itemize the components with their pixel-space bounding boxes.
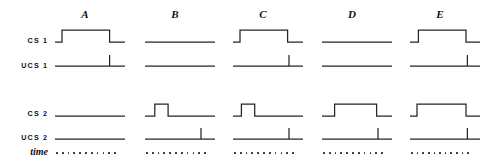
trace-a-cs2 (55, 100, 125, 120)
trace-c-ucs2 (233, 125, 303, 143)
column-header-a: A (65, 8, 105, 20)
column-header-b: B (155, 8, 195, 20)
time-dots-e (411, 151, 469, 155)
trace-d-cs1 (322, 26, 392, 46)
column-header-e: E (420, 8, 460, 20)
trace-d-cs2 (322, 100, 392, 120)
row-label-cs2: CS 2 (2, 109, 48, 118)
trace-d-ucs2 (322, 125, 392, 143)
trace-b-ucs2 (145, 125, 215, 143)
trace-d-ucs1 (322, 52, 392, 70)
trace-b-cs2 (145, 100, 215, 120)
trace-e-cs2 (410, 100, 480, 120)
trace-e-cs1 (410, 26, 480, 46)
time-dots-a (56, 151, 116, 155)
row-label-time: time (2, 146, 48, 157)
trace-a-ucs2 (55, 125, 125, 143)
row-label-ucs2: UCS 2 (2, 133, 48, 142)
time-dots-c (234, 151, 294, 155)
row-label-ucs1: UCS 1 (2, 61, 48, 70)
trace-b-ucs1 (145, 52, 215, 70)
column-header-c: C (243, 8, 283, 20)
time-dots-b (146, 151, 206, 155)
column-header-d: D (332, 8, 372, 20)
trace-e-ucs2 (410, 125, 480, 143)
trace-a-ucs1 (55, 52, 125, 70)
trace-c-ucs1 (233, 52, 303, 70)
trace-c-cs2 (233, 100, 303, 120)
trace-a-cs1 (55, 26, 125, 46)
trace-e-ucs1 (410, 52, 480, 70)
time-dots-d (323, 151, 383, 155)
row-label-cs1: CS 1 (2, 36, 48, 45)
trace-c-cs1 (233, 26, 303, 46)
trace-b-cs1 (145, 26, 215, 46)
